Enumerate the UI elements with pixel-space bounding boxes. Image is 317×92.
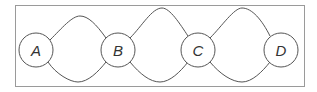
node-label-b: B: [113, 42, 123, 59]
node-a: A: [19, 33, 53, 67]
node-label-c: C: [193, 42, 204, 59]
multigraph-diagram: A B C D: [0, 0, 317, 92]
node-c: C: [181, 33, 215, 67]
node-b: B: [101, 33, 135, 67]
diagram-frame: [16, 6, 305, 87]
node-d: D: [264, 33, 298, 67]
node-label-a: A: [30, 42, 41, 59]
node-label-d: D: [276, 42, 287, 59]
